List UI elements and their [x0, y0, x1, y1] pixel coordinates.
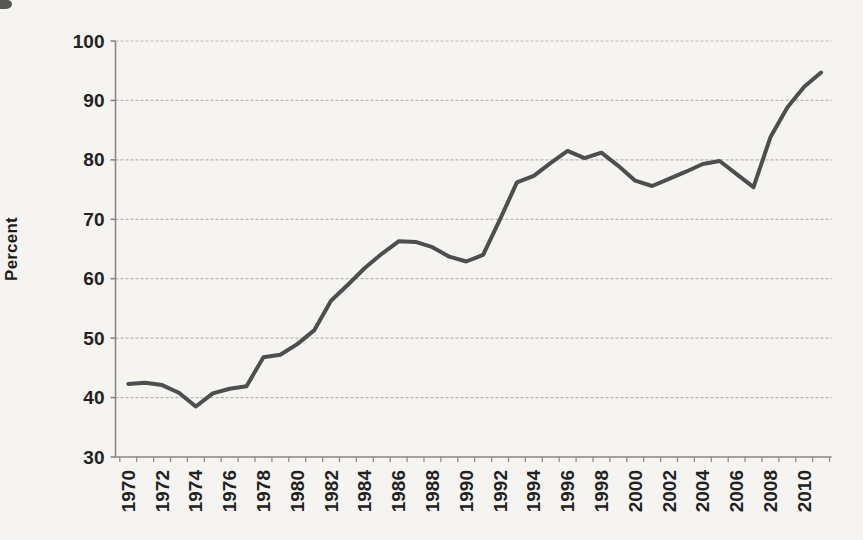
y-axis-ticks-labels: 30405060708090100 [73, 31, 116, 468]
x-axis-labels: 1970197219741976197819801982198419861988… [118, 470, 815, 513]
x-tick-label: 1994 [523, 470, 544, 513]
x-tick-label: 1986 [388, 470, 409, 512]
axes [115, 41, 832, 457]
x-tick-label: 1978 [253, 470, 274, 512]
x-tick-label: 2004 [692, 470, 713, 513]
x-tick-label: 1982 [321, 470, 342, 512]
x-tick-label: 1980 [287, 470, 308, 512]
x-tick-label: 2006 [726, 470, 747, 512]
y-tick-label: 30 [83, 447, 104, 468]
y-tick-label: 90 [83, 90, 104, 111]
x-tick-label: 2000 [625, 470, 646, 512]
gridlines [116, 41, 832, 398]
x-tick-label: 1976 [219, 470, 240, 512]
x-tick-label: 2002 [659, 470, 680, 512]
x-tick-label: 1990 [456, 470, 477, 512]
y-tick-label: 50 [83, 328, 104, 349]
y-tick-label: 40 [83, 387, 104, 408]
x-tick-label: 1996 [557, 470, 578, 512]
y-tick-label: 100 [73, 31, 105, 52]
x-tick-label: 1984 [354, 470, 375, 513]
x-tick-label: 1992 [490, 470, 511, 512]
y-tick-label: 60 [83, 268, 104, 289]
x-tick-label: 1974 [185, 470, 206, 513]
x-tick-label: 1972 [152, 470, 173, 512]
x-tick-label: 2008 [760, 470, 781, 512]
y-tick-label: 70 [83, 209, 104, 230]
x-tick-label: 2010 [794, 470, 815, 512]
y-tick-label: 80 [83, 149, 104, 170]
x-tick-label: 1998 [591, 470, 612, 512]
x-tick-label: 1970 [118, 470, 139, 512]
percent-line-chart: 3040506070809010019701972197419761978198… [0, 0, 863, 540]
data-series-line [128, 73, 821, 407]
x-tick-label: 1988 [422, 470, 443, 512]
line-chart-figure: Percent 30405060708090100197019721974197… [0, 0, 863, 540]
